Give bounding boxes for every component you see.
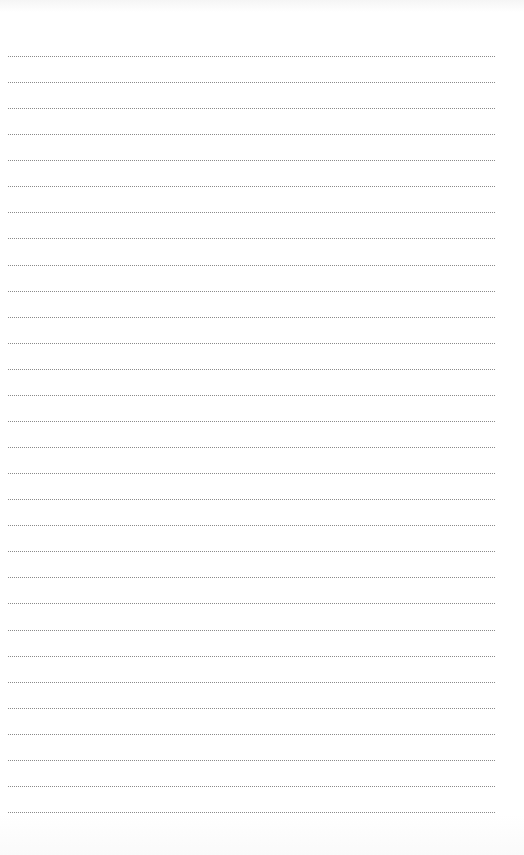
ruled-line <box>8 108 496 109</box>
ruled-line <box>8 473 496 474</box>
ruled-line <box>8 656 496 657</box>
ruled-line <box>8 577 496 578</box>
ruled-line <box>8 734 496 735</box>
ruled-line <box>8 551 496 552</box>
ruled-line <box>8 212 496 213</box>
ruled-line <box>8 708 496 709</box>
ruled-line <box>8 603 496 604</box>
ruled-line <box>8 186 496 187</box>
ruled-line <box>8 82 496 83</box>
ruled-line <box>8 421 496 422</box>
ruled-line <box>8 812 496 813</box>
ruled-line <box>8 160 496 161</box>
ruled-line <box>8 265 496 266</box>
notebook-page <box>0 0 524 855</box>
ruled-line <box>8 291 496 292</box>
ruled-line <box>8 134 496 135</box>
ruled-line <box>8 343 496 344</box>
ruled-line <box>8 238 496 239</box>
ruled-line <box>8 317 496 318</box>
ruled-line <box>8 499 496 500</box>
ruled-line <box>8 447 496 448</box>
ruled-line <box>8 56 496 57</box>
paper-showthrough-bottom <box>0 815 524 855</box>
ruled-lines <box>0 0 524 855</box>
ruled-line <box>8 760 496 761</box>
ruled-line <box>8 786 496 787</box>
ruled-line <box>8 395 496 396</box>
ruled-line <box>8 369 496 370</box>
ruled-line <box>8 525 496 526</box>
ruled-line <box>8 630 496 631</box>
ruled-line <box>8 682 496 683</box>
